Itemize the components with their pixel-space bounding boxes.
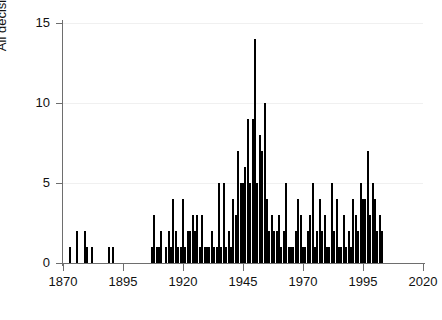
x-tick-1995 [363, 264, 364, 271]
bar [108, 247, 110, 263]
bar [69, 247, 71, 263]
bar [76, 231, 78, 263]
bar [112, 247, 114, 263]
x-tick-1945 [243, 264, 244, 271]
x-tick-1970 [303, 264, 304, 271]
y-tick-5 [56, 183, 63, 184]
x-tick-label-2020: 2020 [393, 274, 442, 289]
y-tick-0 [56, 263, 63, 264]
x-tick-1870 [63, 264, 64, 271]
x-tick-label-1870: 1870 [33, 274, 93, 289]
x-tick-label-1995: 1995 [333, 274, 393, 289]
bar [160, 231, 162, 263]
x-tick-label-1945: 1945 [213, 274, 273, 289]
bar [91, 247, 93, 263]
y-tick-label-10: 10 [0, 95, 50, 110]
gridline-y-10 [63, 103, 423, 104]
x-tick-1920 [183, 264, 184, 271]
y-tick-label-0: 0 [0, 255, 50, 270]
y-tick-label-15: 15 [0, 15, 50, 30]
x-tick-label-1970: 1970 [273, 274, 333, 289]
x-tick-label-1920: 1920 [153, 274, 213, 289]
y-tick-15 [56, 23, 63, 24]
gridline-y-15 [63, 23, 423, 24]
y-tick-10 [56, 103, 63, 104]
plot-area [63, 23, 423, 263]
x-tick-2020 [423, 264, 424, 271]
bar [86, 247, 88, 263]
y-tick-label-5: 5 [0, 175, 50, 190]
x-tick-1895 [123, 264, 124, 271]
x-tick-label-1895: 1895 [93, 274, 153, 289]
bar [381, 231, 383, 263]
